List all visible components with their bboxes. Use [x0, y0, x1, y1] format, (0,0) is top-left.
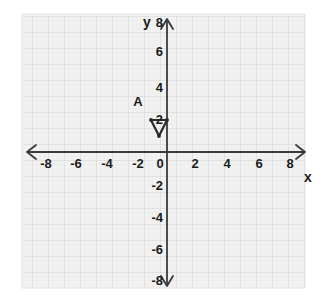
x-axis-label: x	[304, 169, 312, 185]
grid-paper	[22, 14, 305, 288]
triangle-a-label: A	[133, 94, 143, 109]
y-axis-label: y	[143, 14, 151, 30]
triangle-a-vertex-3	[157, 134, 161, 138]
x-tick-label-0: 0	[156, 156, 163, 171]
x-tick-label-2: 2	[191, 156, 198, 171]
y-tick-label--4: -4	[151, 210, 163, 225]
y-tick-label--6: -6	[151, 242, 163, 257]
y-tick-label-6: 6	[156, 44, 163, 59]
x-tick-label--2: -2	[132, 156, 144, 171]
y-tick-label--2: -2	[151, 178, 163, 193]
coordinate-plane-figure: -8 -6 -4 -2 0 2 4 6 8 8 6 4 2 -2 -4 -6 -…	[0, 0, 327, 301]
graph-canvas: -8 -6 -4 -2 0 2 4 6 8 8 6 4 2 -2 -4 -6 -…	[0, 0, 327, 301]
x-tick-label--6: -6	[70, 156, 82, 171]
x-tick-label-6: 6	[255, 156, 262, 171]
x-tick-label--8: -8	[40, 156, 52, 171]
y-tick-label--8: -8	[151, 273, 163, 288]
y-tick-label-4: 4	[156, 80, 164, 95]
x-tick-label-8: 8	[286, 156, 293, 171]
triangle-a-vertex-1	[149, 118, 153, 122]
y-tick-label-8: 8	[156, 15, 163, 30]
x-tick-label-4: 4	[223, 156, 231, 171]
x-tick-label--4: -4	[101, 156, 113, 171]
triangle-a-vertex-2	[165, 118, 169, 122]
